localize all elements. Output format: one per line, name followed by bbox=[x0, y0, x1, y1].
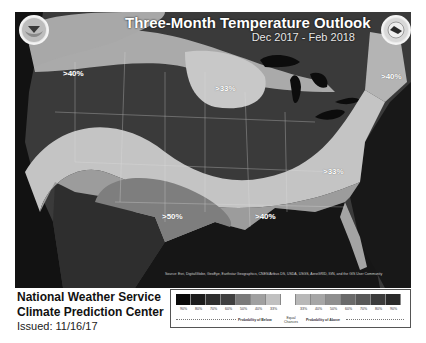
legend-probability-row: Probability of Below Equal Chances Proba… bbox=[176, 316, 406, 326]
legend-swatch bbox=[236, 294, 251, 305]
issued-date: Issued: 11/16/17 bbox=[17, 320, 164, 333]
map-label-mid-atlantic: >33% bbox=[323, 167, 344, 176]
noaa-logo-icon bbox=[19, 15, 49, 45]
legend-tick-label: 50% bbox=[326, 307, 341, 311]
legend-tick-label: 40% bbox=[311, 307, 326, 311]
nws-logo-icon bbox=[381, 15, 411, 45]
issuer-block: National Weather Service Climate Predict… bbox=[17, 290, 164, 333]
legend-swatch bbox=[371, 294, 386, 305]
legend-swatch bbox=[326, 294, 341, 305]
org-name-cpc: Climate Prediction Center bbox=[17, 305, 164, 320]
legend-above-label: Probability of Above bbox=[306, 318, 340, 322]
legend-swatch bbox=[311, 294, 326, 305]
map-attribution: Source: Esri, DigitalGlobe, GeoEye, Eart… bbox=[165, 272, 405, 277]
legend-tick-label: 40% bbox=[251, 307, 266, 311]
legend-swatch bbox=[266, 294, 281, 305]
legend-tick-label: 90% bbox=[176, 307, 191, 311]
legend-tick-label: 33% bbox=[296, 307, 311, 311]
legend-tick-label: 80% bbox=[371, 307, 386, 311]
map-label-southwest: >50% bbox=[162, 212, 183, 221]
legend-swatch bbox=[221, 294, 236, 305]
outlook-map: Three-Month Temperature Outlook Dec 2017… bbox=[15, 12, 411, 288]
legend-equal-label: Equal Chances bbox=[282, 316, 300, 324]
legend-swatch bbox=[281, 294, 296, 305]
legend-tick-label: 33% bbox=[266, 307, 281, 311]
legend-ticks: 90%80%70%60%50%40%33%33%40%50%60%70%80%9… bbox=[176, 307, 401, 311]
legend-tick-label: 90% bbox=[386, 307, 401, 311]
org-name-nws: National Weather Service bbox=[17, 290, 164, 305]
legend-swatch bbox=[296, 294, 311, 305]
map-label-north-central: >33% bbox=[215, 84, 236, 93]
legend-below-label: Probability of Below bbox=[238, 318, 272, 322]
probability-legend: 90%80%70%60%50%40%33%33%40%50%60%70%80%9… bbox=[170, 289, 411, 328]
arrow-right-icon bbox=[346, 319, 404, 320]
legend-tick-label bbox=[281, 307, 296, 311]
legend-swatch bbox=[206, 294, 221, 305]
legend-tick-label: 60% bbox=[221, 307, 236, 311]
map-label-northwest: >40% bbox=[63, 69, 84, 78]
legend-swatch bbox=[191, 294, 206, 305]
legend-tick-label: 70% bbox=[206, 307, 221, 311]
map-title: Three-Month Temperature Outlook bbox=[125, 14, 365, 31]
legend-tick-label: 70% bbox=[356, 307, 371, 311]
legend-swatches bbox=[176, 294, 401, 305]
legend-tick-label: 80% bbox=[191, 307, 206, 311]
legend-swatch bbox=[251, 294, 266, 305]
legend-swatch bbox=[356, 294, 371, 305]
map-label-new-england: >40% bbox=[381, 72, 402, 81]
legend-tick-label: 60% bbox=[341, 307, 356, 311]
arrow-left-icon bbox=[176, 319, 236, 320]
outlook-period: Dec 2017 - Feb 2018 bbox=[195, 31, 355, 43]
legend-swatch bbox=[341, 294, 356, 305]
map-graphic bbox=[15, 12, 411, 288]
legend-swatch bbox=[386, 294, 401, 305]
map-label-gulf-coast: >40% bbox=[255, 212, 276, 221]
legend-tick-label: 50% bbox=[236, 307, 251, 311]
legend-swatch bbox=[176, 294, 191, 305]
